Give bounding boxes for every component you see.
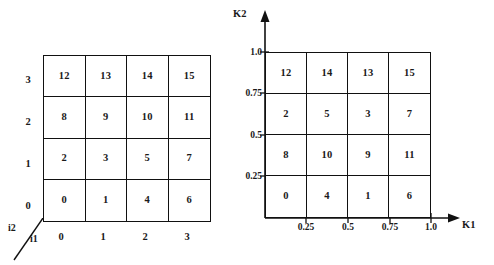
left-col-label: 1 <box>94 232 112 243</box>
left-x-axis-label: i1 <box>30 233 38 244</box>
right-y-tick-labels: 1.0 0.75 0.5 0.25 <box>222 0 262 265</box>
right-y-tick: 1.0 <box>228 48 262 58</box>
right-x-tick: 0.75 <box>375 223 405 233</box>
right-y-tick: 0.5 <box>228 131 262 141</box>
left-cell: 0 <box>44 180 86 221</box>
left-cell: 13 <box>86 56 128 97</box>
right-cell: 0 <box>266 176 307 217</box>
right-cell: 12 <box>266 53 307 94</box>
right-cell: 10 <box>307 135 348 176</box>
right-cell: 11 <box>389 135 430 176</box>
left-cell: 15 <box>169 56 211 97</box>
left-col-label: 3 <box>178 232 196 243</box>
right-cell: 6 <box>389 176 430 217</box>
right-cell: 1 <box>348 176 389 217</box>
right-cell: 2 <box>266 94 307 135</box>
right-x-axis-label: K1 <box>462 219 475 230</box>
right-cell: 7 <box>389 94 430 135</box>
right-cell: 14 <box>307 53 348 94</box>
right-cell: 4 <box>307 176 348 217</box>
left-col-label: 0 <box>52 232 70 243</box>
right-key-grid: 12 14 13 15 2 5 3 7 8 10 9 11 0 4 1 6 <box>265 52 431 218</box>
right-y-tick: 0.25 <box>228 172 262 182</box>
left-cell: 11 <box>169 97 211 138</box>
left-cell: 5 <box>127 139 169 180</box>
left-col-label: 2 <box>136 232 154 243</box>
left-cell: 6 <box>169 180 211 221</box>
right-y-tick: 0.75 <box>228 89 262 99</box>
right-cell: 5 <box>307 94 348 135</box>
right-cell: 3 <box>348 94 389 135</box>
left-cell: 9 <box>86 97 128 138</box>
right-cell: 8 <box>266 135 307 176</box>
left-row-label: 2 <box>20 117 36 128</box>
right-cell: 15 <box>389 53 430 94</box>
left-y-axis-label: i2 <box>8 222 16 233</box>
right-cell: 9 <box>348 135 389 176</box>
left-cell: 14 <box>127 56 169 97</box>
right-y-axis-label: K2 <box>233 8 246 19</box>
left-cell: 8 <box>44 97 86 138</box>
left-cell: 12 <box>44 56 86 97</box>
left-cell: 10 <box>127 97 169 138</box>
right-x-tick: 0.25 <box>291 223 321 233</box>
left-cell: 2 <box>44 139 86 180</box>
left-index-grid: 12 13 14 15 8 9 10 11 2 3 5 7 0 1 4 6 <box>43 55 211 222</box>
left-cell: 4 <box>127 180 169 221</box>
left-row-label: 1 <box>20 159 36 170</box>
left-cell: 1 <box>86 180 128 221</box>
right-x-tick: 1.0 <box>416 223 446 233</box>
right-x-tick: 0.5 <box>333 223 363 233</box>
left-row-label: 3 <box>20 75 36 86</box>
left-cell: 7 <box>169 139 211 180</box>
left-row-label: 0 <box>20 201 36 212</box>
figure-canvas: 12 13 14 15 8 9 10 11 2 3 5 7 0 1 4 6 3 … <box>0 0 494 265</box>
left-cell: 3 <box>86 139 128 180</box>
right-cell: 13 <box>348 53 389 94</box>
